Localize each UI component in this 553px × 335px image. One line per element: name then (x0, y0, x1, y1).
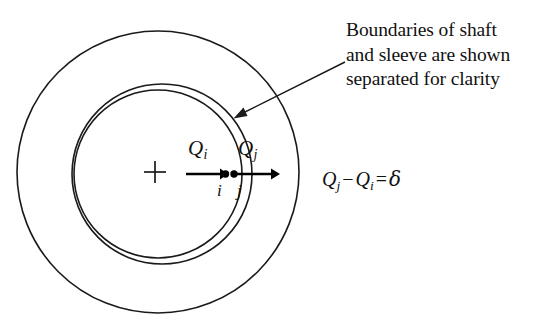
label-qj-subscript: j (253, 147, 257, 162)
equation-q1-symbol: Q (322, 168, 336, 190)
callout-line-3: separated for clarity (346, 67, 551, 92)
label-qj: Qj (238, 136, 257, 163)
equation-qj-minus-qi: Qj−Qi=δ (322, 167, 401, 194)
equation-minus-operator: − (342, 168, 353, 190)
point-j-dot (230, 170, 237, 177)
qj-radius-arrow (234, 169, 280, 180)
callout-text-block: Boundaries of shaft and sleeve are shown… (346, 18, 551, 92)
center-plus-icon (144, 161, 166, 183)
callout-line-2: and sleeve are shown (346, 43, 551, 68)
equation-q2-subscript: i (370, 178, 374, 193)
label-qi-symbol: Q (188, 136, 203, 160)
label-point-j: j (237, 181, 242, 201)
label-qi: Qi (188, 136, 207, 163)
qi-radius-arrow (186, 169, 228, 180)
callout-line-1: Boundaries of shaft (346, 18, 551, 43)
equation-delta-symbol: δ (389, 167, 401, 191)
equation-equals-sign: = (376, 168, 387, 190)
equation-q1-subscript: j (336, 178, 340, 193)
label-point-i: i (217, 181, 222, 201)
figure-canvas: Boundaries of shaft and sleeve are shown… (0, 0, 553, 335)
equation-q2-symbol: Q (356, 168, 370, 190)
label-qi-subscript: i (203, 147, 207, 162)
label-qj-symbol: Q (238, 136, 253, 160)
callout-leader-line (234, 62, 346, 119)
point-i-dot (222, 170, 229, 177)
